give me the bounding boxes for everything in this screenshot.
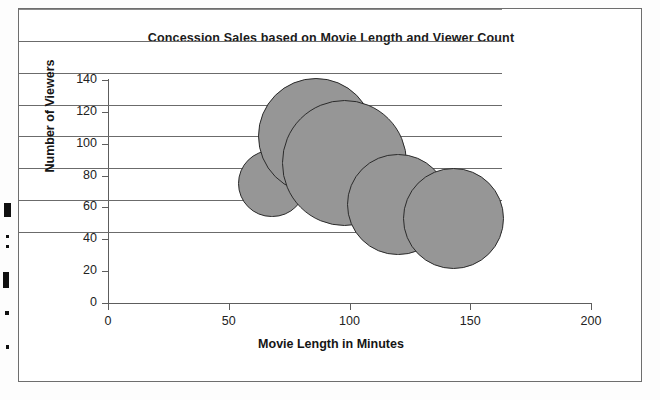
x-tick-label-200: 200 <box>561 314 621 328</box>
x-tick-label-100: 100 <box>320 314 380 328</box>
scanned-page: Concession Sales based on Movie Length a… <box>0 0 660 400</box>
gridline-y-140 <box>19 9 502 10</box>
scan-speck-1 <box>6 235 9 238</box>
x-axis-title: Movie Length in Minutes <box>19 337 643 351</box>
scan-speck-2 <box>6 245 9 248</box>
x-tick-50 <box>229 303 230 310</box>
scan-speck-3 <box>3 272 9 288</box>
scan-speck-5 <box>6 345 9 349</box>
bubble-5[interactable] <box>403 168 504 269</box>
y-tick-label-20: 20 <box>49 263 97 277</box>
scan-speck-4 <box>5 311 9 315</box>
chart-frame: Concession Sales based on Movie Length a… <box>18 8 642 382</box>
x-tick-label-150: 150 <box>440 314 500 328</box>
scan-speck-0 <box>4 203 11 217</box>
y-tick-label-40: 40 <box>49 231 97 245</box>
y-tick-label-0: 0 <box>49 295 97 309</box>
gridline-y-120 <box>19 41 502 42</box>
x-tick-label-50: 50 <box>199 314 259 328</box>
x-tick-150 <box>470 303 471 310</box>
x-tick-0 <box>108 303 109 310</box>
x-tick-label-0: 0 <box>78 314 138 328</box>
y-axis-title: Number of Viewers <box>43 21 57 211</box>
plot-area <box>108 80 591 303</box>
x-tick-200 <box>591 303 592 310</box>
chart-title: Concession Sales based on Movie Length a… <box>19 31 643 45</box>
x-tick-100 <box>350 303 351 310</box>
